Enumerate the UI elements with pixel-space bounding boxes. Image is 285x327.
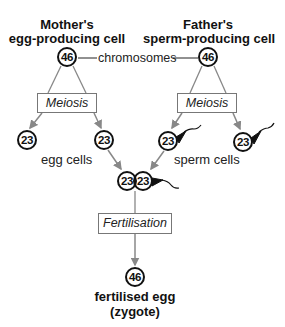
zygote-subtitle: (zygote) bbox=[75, 305, 195, 319]
sperm-cells-label: sperm cells bbox=[174, 153, 240, 167]
fertilisation-box: Fertilisation bbox=[98, 213, 172, 234]
father-title: Father's bbox=[158, 18, 258, 32]
egg-cells-label: egg cells bbox=[41, 153, 92, 167]
sperm-cell-2: 23 bbox=[233, 132, 253, 152]
egg-cell-1: 23 bbox=[17, 130, 37, 150]
fusion-sperm-cell: 23 bbox=[133, 171, 153, 191]
mother-title: Mother's bbox=[17, 18, 117, 32]
egg-cell-2: 23 bbox=[94, 130, 114, 150]
zygote-cell: 46 bbox=[125, 267, 145, 287]
mother-cell-46: 46 bbox=[57, 47, 77, 67]
father-cell-46: 46 bbox=[198, 47, 218, 67]
meiosis-box-right: Meiosis bbox=[177, 93, 237, 113]
meiosis-box-left: Meiosis bbox=[37, 93, 97, 113]
zygote-title: fertilised egg bbox=[75, 290, 195, 304]
sperm-cell-1: 23 bbox=[158, 131, 178, 151]
father-subtitle: sperm-producing cell bbox=[143, 32, 273, 46]
mother-subtitle: egg-producing cell bbox=[7, 32, 127, 46]
chromosomes-label: chromosomes bbox=[98, 51, 177, 65]
